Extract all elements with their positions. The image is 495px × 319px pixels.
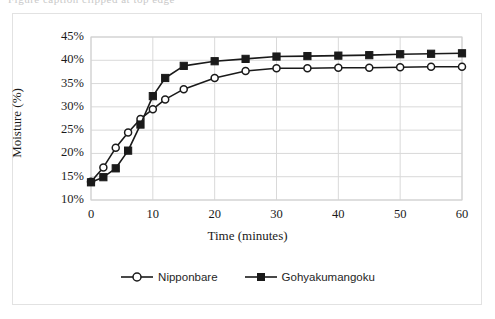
legend-square-icon [244,270,278,284]
data-point-square [211,58,218,65]
gridlines [91,37,462,200]
data-point-square [458,50,465,57]
data-point-square [149,93,156,100]
x-tick-label: 20 [195,207,235,222]
y-tick-label: 20% [44,145,84,160]
data-point-square [335,52,342,59]
data-point-square [162,74,169,81]
data-point-circle [335,64,342,71]
data-point-circle [304,65,311,72]
data-point-circle [397,64,404,71]
legend-item[interactable]: Nipponbare [120,270,217,284]
data-point-square [304,52,311,59]
data-point-square [366,52,373,59]
data-point-circle [149,106,156,113]
data-point-circle [366,64,373,71]
legend-circle-icon [120,270,154,284]
x-tick-label: 10 [133,207,173,222]
y-tick-label: 35% [44,76,84,91]
x-tick-label: 50 [380,207,420,222]
data-point-circle [459,63,466,70]
legend-label: Gohyakumangoku [282,271,375,283]
x-tick-label: 60 [442,207,482,222]
data-point-square [112,165,119,172]
data-point-square [125,147,132,154]
data-point-circle [112,144,119,151]
y-tick-label: 45% [44,29,84,44]
chart-legend: NipponbareGohyakumangoku [0,270,495,284]
data-point-square [242,55,249,62]
x-tick-label: 30 [257,207,297,222]
y-tick-label: 40% [44,52,84,67]
legend-item[interactable]: Gohyakumangoku [244,270,375,284]
x-tick-label: 40 [318,207,358,222]
data-point-circle [180,86,187,93]
y-axis-title: Moisture (%) [9,73,25,173]
y-tick-label: 25% [44,122,84,137]
data-point-square [427,50,434,57]
x-tick-label: 0 [71,207,111,222]
data-point-square [180,62,187,69]
data-point-circle [273,65,280,72]
x-axis-title: Time (minutes) [0,228,495,244]
data-point-circle [100,164,107,171]
data-point-circle [211,74,218,81]
data-point-square [273,53,280,60]
data-point-square [137,121,144,128]
data-point-square [397,51,404,58]
legend-label: Nipponbare [158,271,217,283]
data-point-circle [242,67,249,74]
data-point-circle [428,63,435,70]
data-point-circle [125,129,132,136]
data-point-square [87,179,94,186]
y-tick-label: 10% [44,192,84,207]
y-tick-label: 15% [44,169,84,184]
data-point-square [100,174,107,181]
data-point-circle [162,96,169,103]
y-tick-label: 30% [44,99,84,114]
